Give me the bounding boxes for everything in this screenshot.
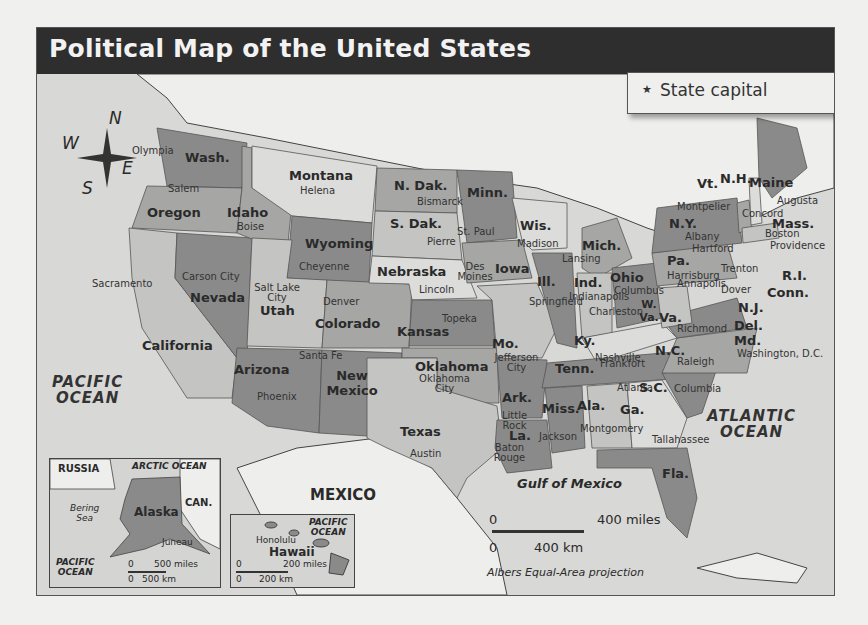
capital-label: Nashville [595,352,641,363]
state-label: Wis. [520,218,551,233]
map-title: Political Map of the United States [49,34,531,63]
state-label: S.C. [639,380,668,395]
capital-label: Augusta [777,195,818,206]
alaska-scale-km: 500 km [142,574,176,584]
state-label: Wash. [185,150,230,165]
state-label: Colorado [315,316,380,331]
capital-label: Denver [323,296,359,307]
capital-label: Hartford [692,243,734,254]
state-label: Mo. [492,336,519,351]
capital-label: Boston [765,228,800,239]
state-label: N. Dak. [394,178,448,193]
state-label: R.I. [782,268,807,283]
russia-label: RUSSIA [58,463,99,474]
capital-label: Juneau [162,537,193,547]
capital-label: Carson City [182,271,240,282]
scale-km-label: 400 km [534,540,583,555]
capital-label: Bismarck [417,196,463,207]
capital-label: Raleigh [677,356,714,367]
capital-label: Des Moines [455,262,495,282]
hawaii-scale-zero-km: 0 [236,574,242,584]
state-label: Ind. [574,275,602,290]
state-label: Pa. [667,253,690,268]
hawaii-scale-zero: 0 [236,559,242,569]
state-label: Oregon [147,205,201,220]
compass-rose-icon [77,128,137,188]
capital-label: Harrisburg [667,270,720,281]
alaska-scale-bar [128,571,166,573]
state-label: California [142,338,213,353]
capital-label: Columbia [674,383,721,394]
alaska-scale-zero-km: 0 [128,574,134,584]
alaska-scale-zero: 0 [128,559,134,569]
atlantic-ocean-label: ATLANTICOCEAN [707,408,796,440]
capital-label: Columbus [614,285,664,296]
capital-label: Baton Rouge [492,443,527,463]
canada-label: CAN. [185,497,212,508]
state-label: Idaho [227,205,268,220]
capital-label: Concord [742,208,783,219]
star-icon: ★ [642,83,652,96]
state-label: Ill. [537,274,556,289]
bering-sea-label: BeringSea [70,503,99,523]
state-label: La. [509,428,531,443]
state-label: Md. [734,333,761,348]
capital-label: Montgomery [580,423,643,434]
state-label: Ky. [574,333,595,348]
state-label: N.Y. [669,216,697,231]
federal-district-label: Washington, D.C. [737,348,823,359]
alaska-scale-miles: 500 miles [154,559,198,569]
hawaii-inset: Honolulu Hawaii PACIFICOCEAN 0 200 miles… [230,514,355,588]
capital-label: Salem [168,183,199,194]
state-label: Ark. [502,390,532,405]
state-label: Utah [260,303,295,318]
capital-label: Jackson [539,431,577,442]
state-label: Nebraska [377,264,446,279]
arctic-ocean-label: ARCTIC OCEAN [132,461,207,471]
capital-label: Madison [517,238,559,249]
state-label: Hawaii [269,545,315,559]
state-label: Nevada [190,290,245,305]
capital-label: Austin [410,448,441,459]
state-label: Del. [734,318,763,333]
state-label: Iowa [495,261,530,276]
state-label: Oklahoma [415,359,488,374]
capital-label: Albany [685,231,719,242]
state-label: Montana [289,168,353,183]
projection-label: Albers Equal-Area projection [487,566,644,579]
hawaii-pacific-label: PACIFICOCEAN [309,517,348,537]
capital-label: Tallahassee [652,434,709,445]
capital-label: Trenton [721,263,758,274]
capital-label: St. Paul [457,226,494,237]
capital-label: Honolulu [256,535,296,545]
state-label: Vt. [697,176,718,191]
capital-label: Charleston [589,306,643,317]
alaska-inset: RUSSIA ARCTIC OCEAN CAN. BeringSea Alask… [49,458,221,588]
legend-label: State capital [660,80,768,100]
capital-label: Richmond [677,323,727,334]
capital-label: Sacramento [92,278,152,289]
state-label: Mich. [582,238,621,253]
capital-label: Olympia [132,145,174,156]
capital-label: Providence [770,240,825,251]
capital-label: Boise [237,221,264,232]
capital-label: Pierre [427,236,456,247]
state-label: Texas [400,424,441,439]
capital-label: Lincoln [419,284,454,295]
capital-label: Helena [300,185,335,196]
state-label: S. Dak. [390,216,442,231]
title-bar: Political Map of the United States [37,28,834,74]
capital-label: Topeka [442,313,477,324]
capital-label: Montpelier [677,201,730,212]
state-label: Alaska [134,505,179,519]
state-label: Minn. [467,185,508,200]
state-label: Miss. [542,401,580,416]
legend-box: ★ State capital [627,72,835,114]
state-label: Maine [749,175,793,190]
inset-pacific-label: PACIFICOCEAN [56,557,95,577]
pacific-ocean-label: PACIFICOCEAN [52,374,123,406]
compass-n: N [109,108,122,128]
capital-label: Dover [721,284,751,295]
state-label: Wyoming [305,236,373,251]
state-label: Ga. [620,402,644,417]
